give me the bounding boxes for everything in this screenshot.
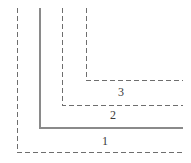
- contour-line-3: [86, 8, 183, 80]
- contour-canvas: [0, 0, 191, 163]
- contour-label-2: 2: [110, 109, 116, 121]
- contour-label-3: 3: [118, 86, 124, 98]
- contour-label-1: 1: [102, 135, 108, 147]
- contour-figure: 3 2 1: [0, 0, 191, 163]
